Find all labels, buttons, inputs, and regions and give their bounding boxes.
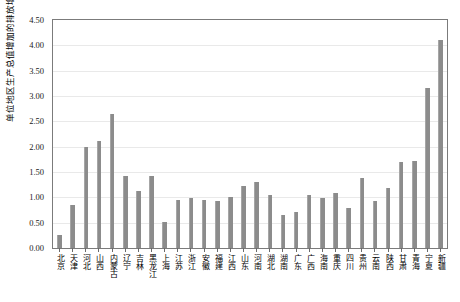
bar-column	[316, 20, 329, 248]
bar-column	[421, 20, 434, 248]
x-tick-mark	[243, 248, 244, 252]
x-tick-slot	[382, 248, 395, 252]
x-label-slot: 新疆	[434, 254, 447, 302]
x-axis-tick-marks	[53, 248, 447, 252]
bar	[215, 201, 220, 248]
x-tick-slot	[198, 248, 211, 252]
x-label-slot: 江苏	[171, 254, 184, 302]
bar	[294, 212, 299, 248]
bar-column	[198, 20, 211, 248]
x-tick-label: 广西	[305, 254, 313, 270]
bar-column	[53, 20, 66, 248]
y-tick-label: 0.50	[29, 218, 44, 228]
x-label-slot: 甘肃	[395, 254, 408, 302]
x-tick-slot	[158, 248, 171, 252]
bar	[136, 191, 141, 248]
x-tick-mark	[361, 248, 362, 252]
x-tick-slot	[408, 248, 421, 252]
x-label-slot: 湖南	[276, 254, 289, 302]
bar	[360, 178, 365, 248]
x-tick-slot	[355, 248, 368, 252]
x-tick-mark	[72, 248, 73, 252]
bar-column	[382, 20, 395, 248]
x-tick-slot	[184, 248, 197, 252]
bar-column	[224, 20, 237, 248]
x-tick-slot	[395, 248, 408, 252]
x-label-slot: 四川	[342, 254, 355, 302]
x-tick-label: 河北	[82, 254, 90, 270]
x-tick-label: 上海	[161, 254, 169, 270]
x-tick-label: 四川	[345, 254, 353, 270]
y-tick-label: 3.00	[29, 91, 44, 101]
x-tick-label: 山东	[240, 254, 248, 270]
x-tick-slot	[316, 248, 329, 252]
x-tick-slot	[342, 248, 355, 252]
x-label-slot: 贵州	[355, 254, 368, 302]
x-label-slot: 天津	[66, 254, 79, 302]
x-tick-label: 黑龙江	[148, 254, 156, 278]
bar	[438, 40, 443, 248]
x-tick-label: 吉林	[134, 254, 142, 270]
bar	[399, 162, 404, 248]
x-tick-slot	[276, 248, 289, 252]
x-label-slot: 陕西	[382, 254, 395, 302]
y-tick-label: 4.50	[29, 15, 44, 25]
x-tick-slot	[290, 248, 303, 252]
x-tick-mark	[282, 248, 283, 252]
x-tick-mark	[427, 248, 428, 252]
bar-column	[395, 20, 408, 248]
bar-column	[158, 20, 171, 248]
x-label-slot: 云南	[368, 254, 381, 302]
x-label-slot: 河北	[79, 254, 92, 302]
x-label-slot: 山东	[237, 254, 250, 302]
bar-column	[211, 20, 224, 248]
x-label-slot: 上海	[158, 254, 171, 302]
bar-column	[237, 20, 250, 248]
x-tick-slot	[79, 248, 92, 252]
bar-column	[106, 20, 119, 248]
bar-column	[66, 20, 79, 248]
bar-column	[342, 20, 355, 248]
bar	[189, 198, 194, 248]
x-tick-slot	[237, 248, 250, 252]
bar	[228, 197, 233, 248]
x-label-slot: 浙江	[184, 254, 197, 302]
x-tick-slot	[224, 248, 237, 252]
x-tick-mark	[204, 248, 205, 252]
x-tick-mark	[269, 248, 270, 252]
x-tick-label: 宁夏	[424, 254, 432, 270]
x-label-slot: 湖北	[263, 254, 276, 302]
bar-column	[79, 20, 92, 248]
x-tick-mark	[177, 248, 178, 252]
y-tick-label: 3.50	[29, 66, 44, 76]
x-tick-label: 辽宁	[121, 254, 129, 270]
bar-column	[276, 20, 289, 248]
x-tick-mark	[440, 248, 441, 252]
x-label-slot: 河南	[250, 254, 263, 302]
bar	[123, 176, 128, 248]
x-label-slot: 吉林	[132, 254, 145, 302]
bar-column	[145, 20, 158, 248]
x-tick-label: 陕西	[384, 254, 392, 270]
bar	[412, 161, 417, 248]
bar	[320, 198, 325, 248]
y-axis-tick-labels: 0.000.501.001.502.002.503.003.504.004.50	[0, 0, 52, 302]
x-tick-label: 贵州	[358, 254, 366, 270]
x-tick-label: 河南	[253, 254, 261, 270]
x-tick-slot	[53, 248, 66, 252]
x-tick-mark	[309, 248, 310, 252]
bar-column	[263, 20, 276, 248]
x-tick-label: 北京	[56, 254, 64, 270]
y-tick-label: 2.50	[29, 116, 44, 126]
bar-chart-figure: 单位地区生产总值增加的排放增加(吨/万元) 0.000.501.001.502.…	[0, 0, 460, 302]
x-label-slot: 山西	[92, 254, 105, 302]
bar-column	[171, 20, 184, 248]
bar-column	[355, 20, 368, 248]
x-tick-label: 湖南	[279, 254, 287, 270]
x-tick-slot	[303, 248, 316, 252]
x-tick-label: 安徽	[200, 254, 208, 270]
x-tick-mark	[296, 248, 297, 252]
y-tick-label: 2.00	[29, 142, 44, 152]
x-tick-slot	[171, 248, 184, 252]
x-tick-slot	[211, 248, 224, 252]
